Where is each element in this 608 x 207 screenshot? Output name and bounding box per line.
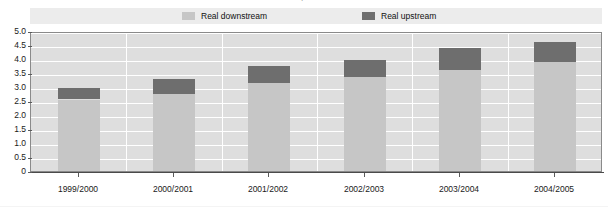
x-axis-tick-mark [554,173,555,177]
bar-segment-downstream [153,94,195,171]
bar-segment-downstream [534,62,576,171]
gridline [31,159,601,160]
y-axis-tick-label: 2.5 [14,97,26,106]
y-axis-tick-label: 5.0 [14,27,26,36]
x-axis-category-label: 2000/2001 [153,184,193,194]
x-axis-tick-mark [173,173,174,177]
bar-segment-upstream [439,48,481,70]
y-axis-tick-mark [28,32,32,33]
legend-label-real-upstream: Real upstream [381,11,436,21]
bar-segment-downstream [344,77,386,171]
bar-segment-upstream [344,60,386,77]
gridline [31,61,601,62]
y-axis-tick-label: 4.5 [14,41,26,50]
gridline [31,89,601,90]
legend-swatch-downstream-icon [182,12,195,20]
x-axis-tick-mark [364,173,365,177]
x-axis-category-label: 1999/2000 [58,184,98,194]
bar-group [248,31,290,171]
category-separator [317,33,318,171]
legend-item-real-downstream: Real downstream [182,8,267,24]
y-axis-tick-label: 4.0 [14,55,26,64]
bar-group [439,31,481,171]
gridline [31,33,601,34]
x-axis-tick-mark [459,173,460,177]
x-axis-line [30,172,604,173]
gridline [31,75,601,76]
y-axis-tick-label: 1.5 [14,125,26,134]
bar-segment-upstream [248,66,290,83]
y-axis-tick-label: 3.0 [14,83,26,92]
y-axis-tick-label: 1.0 [14,139,26,148]
category-separator [222,33,223,171]
gridline [31,131,601,132]
category-separator [412,33,413,171]
bar-group [153,31,195,171]
x-axis-category-label: 2002/2003 [344,184,384,194]
chart-title-clipped: Oil price [0,0,608,7]
y-axis: 5.04.54.03.53.02.52.01.51.00.50 [0,32,26,172]
bar-segment-downstream [248,83,290,171]
bar-group [58,31,100,171]
bar-group [534,31,576,171]
x-axis-category-label: 2001/2002 [248,184,288,194]
y-axis-tick-mark [28,102,32,103]
gridline [31,103,601,104]
bar-segment-upstream [153,79,195,94]
bar-segment-upstream [58,88,100,99]
bar-segment-upstream [534,42,576,62]
y-axis-tick-mark [28,172,32,173]
chart-title-text: Oil price [0,0,608,1]
category-separator [126,33,127,171]
chart-legend: Real downstream Real upstream [30,8,602,24]
legend-label-real-downstream: Real downstream [201,11,267,21]
bar-segment-downstream [439,70,481,171]
category-separator [508,33,509,171]
legend-item-real-upstream: Real upstream [362,8,436,24]
y-axis-tick-mark [28,46,32,47]
gridline [31,145,601,146]
gridline [31,47,601,48]
y-axis-tick-label: 3.5 [14,69,26,78]
plot-area [30,32,602,172]
x-axis-tick-mark [268,173,269,177]
y-axis-tick-mark [28,74,32,75]
x-axis-category-label: 2004/2005 [534,184,574,194]
legend-swatch-upstream-icon [362,12,375,20]
y-axis-tick-label: 0.5 [14,153,26,162]
chart-figure: Oil price Real downstream Real upstream … [0,0,608,207]
y-axis-tick-mark [28,130,32,131]
page-edge-artifact [0,206,608,207]
y-axis-tick-label: 0 [21,167,26,176]
bar-segment-downstream [58,100,100,171]
y-axis-tick-mark [28,158,32,159]
x-axis-tick-mark [78,173,79,177]
bar-group [344,31,386,171]
y-axis-tick-label: 2.0 [14,111,26,120]
gridline [31,117,601,118]
x-axis-category-label: 2003/2004 [439,184,479,194]
